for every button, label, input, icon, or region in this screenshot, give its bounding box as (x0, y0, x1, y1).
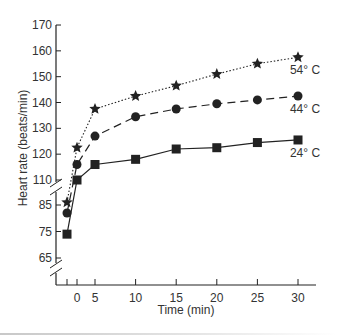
star-marker (130, 90, 141, 101)
y-tick-label: 65 (39, 251, 53, 265)
series-line (67, 57, 298, 202)
square-marker (212, 143, 221, 152)
circle-marker (294, 92, 303, 101)
series-label: 54° C (290, 63, 320, 77)
circle-marker (73, 160, 82, 169)
x-tick-label: 30 (291, 291, 305, 305)
y-tick-label: 170 (32, 18, 52, 32)
square-marker (73, 176, 82, 185)
bottom-divider (0, 333, 337, 335)
y-tick-label: 160 (32, 44, 52, 58)
series-square: 24° C (63, 135, 321, 238)
circle-marker (212, 99, 221, 108)
circle-marker (253, 95, 262, 104)
square-marker (131, 155, 140, 164)
star-marker (252, 58, 263, 69)
star-marker (211, 68, 222, 79)
x-axis-title: Time (min) (158, 303, 215, 317)
y-tick-label: 85 (39, 198, 53, 212)
star-marker (292, 51, 303, 62)
star-marker (61, 196, 72, 207)
square-marker (63, 230, 72, 239)
series-line (67, 96, 298, 213)
y-tick-label: 150 (32, 70, 52, 84)
star-marker (170, 80, 181, 91)
square-marker (91, 160, 100, 169)
series-star: 54° C (61, 51, 320, 207)
series-group: 54° C44° C24° C (61, 51, 320, 238)
series-line (67, 140, 298, 234)
series-circle: 44° C (63, 92, 321, 218)
circle-marker (172, 104, 181, 113)
x-tick-label: 25 (251, 291, 265, 305)
square-marker (253, 138, 262, 147)
square-marker (294, 135, 303, 144)
y-tick-label: 75 (39, 225, 53, 239)
circle-marker (91, 132, 100, 141)
y-tick-label: 140 (32, 96, 52, 110)
star-marker (89, 103, 100, 114)
y-tick-label: 110 (33, 173, 52, 187)
series-label: 24° C (290, 146, 320, 160)
x-tick-label: 10 (129, 291, 143, 305)
y-axis-title: Heart rate (beats/min) (16, 90, 30, 207)
heart-rate-chart: 110120130140150160170657585051015202530 … (0, 0, 337, 336)
y-tick-label: 130 (32, 121, 52, 135)
x-tick-label: 5 (92, 291, 99, 305)
x-tick-label: 0 (74, 291, 81, 305)
star-marker (71, 142, 82, 153)
square-marker (172, 145, 181, 154)
circle-marker (131, 112, 140, 121)
series-label: 44° C (290, 102, 320, 116)
y-tick-label: 120 (32, 147, 52, 161)
